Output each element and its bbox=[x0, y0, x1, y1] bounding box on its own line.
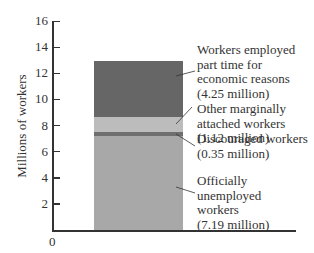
leader-lines bbox=[0, 0, 314, 253]
